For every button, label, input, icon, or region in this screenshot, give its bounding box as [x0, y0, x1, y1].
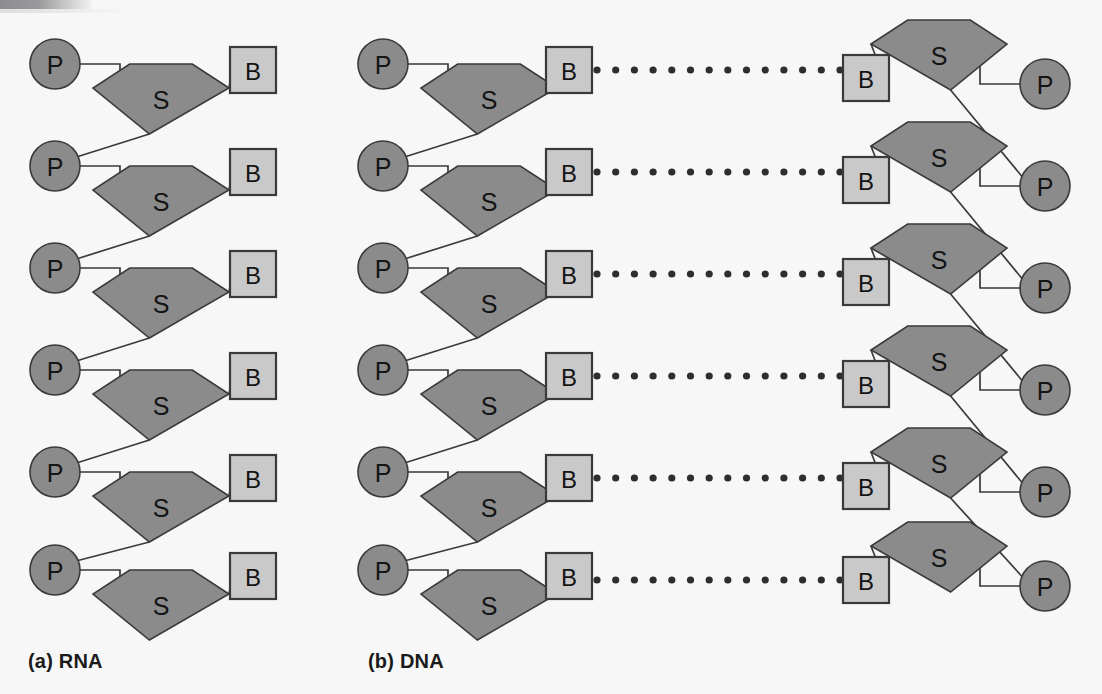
base-square — [546, 251, 592, 297]
hydrogen-bond-dot — [612, 66, 619, 73]
phosphate-circle — [358, 141, 408, 191]
backbone-bond-sugar-to-next-phosphate — [406, 236, 477, 259]
sugar-pentagon — [421, 370, 557, 440]
nucleic-acid-diagram: SPBSPBSPBSPBSPBSPBSPBSPBSPBSPBSPBSPBSPBS… — [0, 0, 1102, 694]
phosphate-circle — [30, 545, 80, 595]
sugar-pentagon — [421, 268, 557, 338]
backbone-bond-sugar-to-next-phosphate — [406, 542, 477, 561]
hydrogen-bond-dot — [687, 372, 694, 379]
hydrogen-bond-dot — [799, 474, 806, 481]
hydrogen-bond-dot — [724, 66, 731, 73]
hydrogen-bond-dot — [818, 474, 825, 481]
sugar-pentagon — [871, 20, 1007, 90]
hydrogen-bond-5 — [593, 474, 843, 481]
base-square — [230, 47, 276, 93]
sugar-pentagon — [93, 268, 229, 338]
phosphate-circle — [358, 243, 408, 293]
phosphate-circle — [358, 447, 408, 497]
hydrogen-bond-dot — [631, 270, 638, 277]
phosphate-circle — [30, 39, 80, 89]
base-square — [843, 463, 889, 509]
hydrogen-bond-dot — [724, 576, 731, 583]
hydrogen-bond-dot — [593, 372, 600, 379]
hydrogen-bond-dot — [668, 168, 675, 175]
base-square — [843, 55, 889, 101]
backbone-bond-sugar-to-next-phosphate — [78, 542, 149, 561]
hydrogen-bond-dot — [650, 168, 657, 175]
hydrogen-bond-dot — [687, 66, 694, 73]
hydrogen-bond-1 — [593, 66, 843, 73]
hydrogen-bond-dot — [780, 576, 787, 583]
hydrogen-bond-dot — [631, 168, 638, 175]
node-layer: SPBSPBSPBSPBSPBSPBSPBSPBSPBSPBSPBSPBSPBS… — [30, 20, 1070, 640]
hydrogen-bond-dot — [724, 270, 731, 277]
hydrogen-bond-dot — [743, 372, 750, 379]
hydrogen-bond-dot — [612, 168, 619, 175]
hydrogen-bond-dot — [706, 576, 713, 583]
hydrogen-bond-dot — [650, 66, 657, 73]
hydrogen-bond-dot — [650, 474, 657, 481]
phosphate-circle — [1020, 263, 1070, 313]
hydrogen-bond-dot — [668, 270, 675, 277]
hydrogen-bond-dot — [706, 270, 713, 277]
base-square — [230, 149, 276, 195]
hydrogen-bond-dot — [818, 270, 825, 277]
hydrogen-bond-6 — [593, 576, 843, 583]
hydrogen-bond-dot — [687, 576, 694, 583]
hydrogen-bond-dot — [668, 66, 675, 73]
hydrogen-bond-dot — [743, 66, 750, 73]
hydrogen-bond-dot — [743, 270, 750, 277]
sugar-pentagon — [421, 166, 557, 236]
backbone-bond-sugar-to-next-phosphate — [406, 134, 477, 157]
hydrogen-bond-dot — [706, 66, 713, 73]
phosphate-circle — [1020, 59, 1070, 109]
hydrogen-bond-layer — [593, 66, 843, 583]
hydrogen-bond-dot — [818, 372, 825, 379]
hydrogen-bond-dot — [668, 372, 675, 379]
base-square — [843, 361, 889, 407]
phosphate-circle — [1020, 561, 1070, 611]
hydrogen-bond-dot — [650, 372, 657, 379]
hydrogen-bond-dot — [762, 270, 769, 277]
hydrogen-bond-3 — [593, 270, 843, 277]
hydrogen-bond-dot — [650, 576, 657, 583]
backbone-bond-sugar-to-next-phosphate — [78, 338, 149, 361]
hydrogen-bond-dot — [687, 168, 694, 175]
backbone-bond-sugar-to-next-phosphate — [78, 440, 149, 463]
bond-layer — [78, 44, 1022, 594]
hydrogen-bond-dot — [593, 270, 600, 277]
hydrogen-bond-dot — [762, 372, 769, 379]
hydrogen-bond-dot — [706, 372, 713, 379]
hydrogen-bond-dot — [650, 270, 657, 277]
hydrogen-bond-dot — [612, 576, 619, 583]
phosphate-circle — [30, 447, 80, 497]
hydrogen-bond-dot — [724, 474, 731, 481]
hydrogen-bond-dot — [687, 474, 694, 481]
hydrogen-bond-dot — [762, 576, 769, 583]
sugar-pentagon — [93, 166, 229, 236]
base-square — [230, 353, 276, 399]
hydrogen-bond-dot — [780, 372, 787, 379]
base-square — [546, 553, 592, 599]
hydrogen-bond-dot — [743, 168, 750, 175]
hydrogen-bond-dot — [818, 66, 825, 73]
hydrogen-bond-dot — [818, 168, 825, 175]
phosphate-circle — [30, 141, 80, 191]
hydrogen-bond-dot — [743, 576, 750, 583]
base-square — [843, 157, 889, 203]
hydrogen-bond-dot — [631, 474, 638, 481]
hydrogen-bond-dot — [593, 576, 600, 583]
sugar-pentagon — [421, 472, 557, 542]
panel-caption-dna: (b) DNA — [368, 650, 444, 673]
sugar-pentagon — [93, 64, 229, 134]
figure-root: SPBSPBSPBSPBSPBSPBSPBSPBSPBSPBSPBSPBSPBS… — [0, 0, 1102, 694]
sugar-pentagon — [871, 122, 1007, 192]
hydrogen-bond-dot — [706, 168, 713, 175]
hydrogen-bond-dot — [799, 576, 806, 583]
hydrogen-bond-dot — [780, 474, 787, 481]
hydrogen-bond-dot — [743, 474, 750, 481]
hydrogen-bond-dot — [799, 372, 806, 379]
hydrogen-bond-dot — [668, 576, 675, 583]
backbone-bond-sugar-to-next-phosphate — [406, 440, 477, 463]
hydrogen-bond-dot — [612, 270, 619, 277]
